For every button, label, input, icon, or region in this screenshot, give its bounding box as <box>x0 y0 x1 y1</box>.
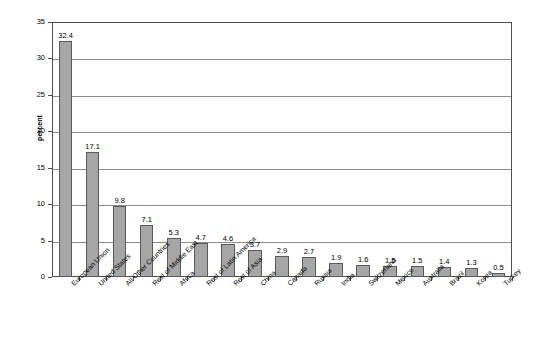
bar <box>194 243 208 277</box>
bar-value-label: 32.4 <box>48 31 83 40</box>
x-axis-category-label: Turkey <box>502 282 508 288</box>
bar-group: 9.8 <box>106 22 133 277</box>
bar-group: 1.6 <box>350 22 377 277</box>
bar-chart: percent 05101520253035 32.417.19.87.15.3… <box>0 0 535 342</box>
x-axis-category-label: Korea <box>475 282 481 288</box>
x-axis-category-label: Mexico <box>394 282 400 288</box>
bar-group: 1.5 <box>404 22 431 277</box>
bar-series: 32.417.19.87.15.34.74.63.72.92.71.91.61.… <box>52 22 512 277</box>
y-axis-tick-mark <box>48 277 52 278</box>
y-axis-tick-label: 25 <box>12 91 45 99</box>
y-axis-tick-label: 0 <box>12 273 45 281</box>
bar-value-label: 9.8 <box>102 196 137 205</box>
x-axis-category-label: Australia <box>421 282 427 288</box>
bar-group: 4.6 <box>214 22 241 277</box>
bar <box>59 41 73 277</box>
bar-group: 7.1 <box>133 22 160 277</box>
bar-group: 17.1 <box>79 22 106 277</box>
bar-group: 0.5 <box>485 22 512 277</box>
bar <box>492 273 506 277</box>
bar-value-label: 7.1 <box>129 215 164 224</box>
bar-group: 1.9 <box>323 22 350 277</box>
x-axis-category-label: Africa <box>178 282 184 288</box>
x-axis-category-label: Rest of Latin America <box>205 282 211 288</box>
x-axis-category-label: Brazil <box>448 282 454 288</box>
x-axis-category-label: Canada <box>286 282 292 288</box>
x-axis-category-label: All Other Countries <box>124 282 130 288</box>
x-axis-category-label: India <box>340 282 346 288</box>
x-axis-category-label: Russia <box>313 282 319 288</box>
y-axis-tick-label: 20 <box>12 127 45 135</box>
bar-value-label: 17.1 <box>75 142 110 151</box>
bar-group: 1.5 <box>377 22 404 277</box>
x-axis-category-label: Rest of Asia <box>232 282 238 288</box>
y-axis-tick-label: 30 <box>12 54 45 62</box>
bar-group: 1.4 <box>431 22 458 277</box>
bar-group: 2.9 <box>268 22 295 277</box>
bar-group: 2.7 <box>296 22 323 277</box>
bar-group: 1.3 <box>458 22 485 277</box>
x-axis-category-label: Switzerland <box>367 282 373 288</box>
x-axis-category-label: Rest of Middle East <box>151 282 157 288</box>
bar <box>356 265 370 277</box>
y-axis-tick-label: 35 <box>12 18 45 26</box>
bar <box>275 256 289 277</box>
x-axis-category-label: China <box>259 282 265 288</box>
bar <box>465 268 479 277</box>
y-axis-tick-label: 15 <box>12 164 45 172</box>
y-axis-tick-label: 10 <box>12 200 45 208</box>
x-axis-category-label: United States <box>97 282 103 288</box>
y-axis-tick-label: 5 <box>12 237 45 245</box>
x-axis-category-label: European Union <box>70 282 76 288</box>
